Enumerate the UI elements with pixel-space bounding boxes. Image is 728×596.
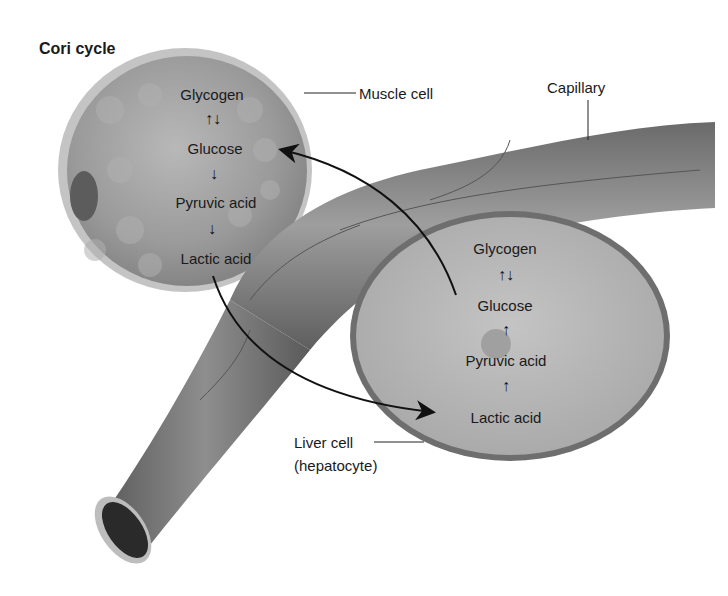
liver-lactate-pyruvate-arrow: ↑ [502,378,510,394]
liver-glycogen: Glycogen [473,240,536,257]
capillary-label: Capillary [547,79,605,96]
muscle-glycogen-glucose-arrows: ↑↓ [205,111,221,127]
muscle-glycogen: Glycogen [180,86,243,103]
cori-cycle-diagram: Cori cycle Glycogen ↑↓ Glucose ↓ Pyruvic… [0,0,728,596]
liver-glucose: Glucose [477,297,532,314]
liver-lactic-acid: Lactic acid [471,409,542,426]
liver-pyruvate-glucose-arrow: ↑ [502,322,510,338]
hepatocyte-label: (hepatocyte) [294,457,377,474]
muscle-cell-label: Muscle cell [359,85,433,102]
muscle-glucose-pyruvate-arrow: ↓ [210,166,218,182]
muscle-glucose: Glucose [187,140,242,157]
nucleus [70,171,98,221]
diagram-title: Cori cycle [39,40,115,58]
liver-pyruvic-acid: Pyruvic acid [466,352,547,369]
muscle-pyruvic-acid: Pyruvic acid [176,194,257,211]
liver-glycogen-glucose-arrows: ↑↓ [498,267,514,283]
liver-cell-label: Liver cell [294,434,353,451]
muscle-lactic-acid: Lactic acid [181,250,252,267]
muscle-pyruvate-lactate-arrow: ↓ [208,221,216,237]
